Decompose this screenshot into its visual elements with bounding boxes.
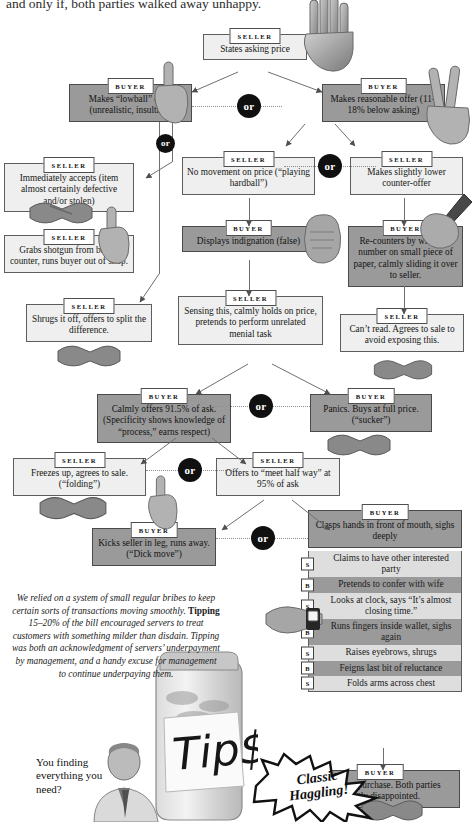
sequence-row-text: Claims to have other interested party xyxy=(333,553,449,574)
or-badge-5: or xyxy=(178,458,202,482)
middle-spine-2 xyxy=(249,260,250,290)
handshake-photo-2 xyxy=(56,341,122,367)
node-offers-91-5-percent[interactable]: BUYER Calmly offers 91.5% of ask. (Speci… xyxy=(97,394,231,443)
writing-hand-pen-photo xyxy=(420,192,473,250)
sequence-row[interactable]: BFeigns last bit of reluctance xyxy=(308,661,462,676)
node-states-asking-price[interactable]: SELLER States asking price xyxy=(203,34,307,60)
or-badge-6: or xyxy=(251,526,275,550)
sequence-row[interactable]: BPretends to confer with wife xyxy=(308,577,462,592)
infographic-canvas: Tip$ and only if, both parties walked aw… xyxy=(0,0,473,822)
middle-finger-photo xyxy=(145,474,179,536)
seller-chip: S xyxy=(301,647,314,660)
seq-to-final-spine xyxy=(383,748,384,764)
sequence-row[interactable]: SClaims to have other interested party xyxy=(308,551,462,577)
role-tag: BUYER xyxy=(225,220,272,236)
role-tag: SELLER xyxy=(223,151,274,167)
node-clasps-hands[interactable]: BUYER Clasps hands in front of mouth, si… xyxy=(308,510,462,548)
sequence-row-text: Looks at clock, says “It’s almost closin… xyxy=(331,595,452,616)
role-tag: BUYER xyxy=(362,504,409,520)
pointing-finger-photo xyxy=(150,60,190,132)
sequence-row[interactable]: SRaises eyebrows, shrugs xyxy=(308,645,462,660)
role-tag: SELLER xyxy=(376,308,427,324)
role-tag: SELLER xyxy=(54,452,105,468)
node-freezes-up-folding[interactable]: SELLER Freezes up, agrees to sale. (“fol… xyxy=(13,458,146,496)
pull-quote-part1: We relied on a system of small regular b… xyxy=(12,593,215,616)
buyer-chip: B xyxy=(301,662,314,675)
or-badge-3: or xyxy=(318,154,342,178)
role-tag: SELLER xyxy=(252,452,303,468)
seller-chip: S xyxy=(301,558,314,571)
sequence-row-text: Folds arms across chest xyxy=(347,678,435,688)
role-tag: SELLER xyxy=(229,28,280,44)
sequence-row-text: Feigns last bit of reluctance xyxy=(340,663,443,673)
handshake-photo-4 xyxy=(326,430,392,456)
node-panics-full-price[interactable]: BUYER Panics. Buys at full price. (“suck… xyxy=(310,394,432,432)
node-calmly-holds-on-price[interactable]: SELLER Sensing this, calmly holds on pri… xyxy=(178,296,323,345)
role-tag: SELLER xyxy=(63,298,114,314)
role-tag: BUYER xyxy=(141,388,188,404)
fist-photo xyxy=(300,212,344,264)
node-slightly-lower-counter-offer[interactable]: SELLER Makes slightly lower counter-offe… xyxy=(350,157,463,195)
sequence-row[interactable]: BRuns fingers inside wallet, sighs again xyxy=(308,619,462,645)
role-tag: BUYER xyxy=(107,78,154,94)
or-badge-4: or xyxy=(249,394,273,418)
middle-spine-1 xyxy=(249,198,250,220)
node-split-the-difference[interactable]: SELLER Shrugs it off, offers to split th… xyxy=(26,304,152,342)
or-badge-1: or xyxy=(237,94,261,118)
role-tag: SELLER xyxy=(43,229,94,245)
pull-quote-part2: 15–20% of the bill encouraged servers to… xyxy=(12,618,220,678)
or-badge-2: or xyxy=(156,134,175,153)
buyer-chip: B xyxy=(301,579,314,592)
pull-quote-bold: Tipping xyxy=(188,606,220,616)
sequence-row-text: Raises eyebrows, shrugs xyxy=(345,647,436,657)
node-displays-indignation[interactable]: BUYER Displays indignation (false) xyxy=(182,226,315,252)
haggling-sequence-list: SClaims to have other interested partyBP… xyxy=(308,551,462,692)
role-tag: BUYER xyxy=(348,388,395,404)
classic-haggling-starburst: Classic Haggling! xyxy=(252,752,380,822)
sequence-row-text: Pretends to confer with wife xyxy=(338,579,443,589)
page-headline: and only if, both parties walked away un… xyxy=(6,0,326,11)
node-meet-half-way[interactable]: SELLER Offers to “meet half way” at 95% … xyxy=(216,458,340,496)
peace-sign-hand-photo xyxy=(424,64,473,160)
sequence-row[interactable]: SLooks at clock, says “It’s almost closi… xyxy=(308,593,462,619)
open-hand-photo xyxy=(300,0,364,90)
seller-chip: S xyxy=(301,677,314,690)
wristwatch-arm-photo xyxy=(264,602,330,638)
node-cant-read[interactable]: SELLER Can’t read. Agrees to sale to avo… xyxy=(340,314,464,352)
tip-jar-sign-text: Tip$ xyxy=(170,721,258,780)
sequence-row[interactable]: SFolds arms across chest xyxy=(308,676,462,692)
role-tag: BUYER xyxy=(360,78,407,94)
right-spine-1 xyxy=(404,198,405,220)
shopkeeper-speech: You finding everything you need? xyxy=(36,756,121,796)
handshake-photo-5 xyxy=(38,492,108,520)
role-tag: SELLER xyxy=(43,157,94,173)
right-spine-2 xyxy=(404,286,405,308)
node-no-movement-on-price[interactable]: SELLER No movement on price (“playing ha… xyxy=(182,157,315,195)
pull-quote: We relied on a system of small regular b… xyxy=(12,592,220,680)
handshake-photo-3 xyxy=(372,356,434,380)
role-tag: SELLER xyxy=(225,290,276,306)
sequence-row-text: Runs fingers inside wallet, sighs again xyxy=(331,621,452,642)
raised-finger-photo xyxy=(96,205,130,271)
handshake-photo-1 xyxy=(28,198,94,224)
